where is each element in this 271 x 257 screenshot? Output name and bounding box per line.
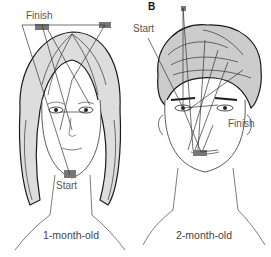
start-label: Start [56,180,77,191]
finish-label: Finish [228,118,255,129]
caption-1-month-old: 1-month-old [43,229,99,241]
panel-letter-b: B [148,1,155,12]
panel-1-month-old: Finish Start 1-month-old [0,0,135,257]
start-label: Start [133,23,154,34]
face-drawing-infant-1 [0,0,135,257]
finish-label: Finish [26,10,53,21]
panel-2-month-old: B Start Finish 2-month-old [133,0,271,257]
caption-2-month-old: 2-month-old [176,229,232,241]
